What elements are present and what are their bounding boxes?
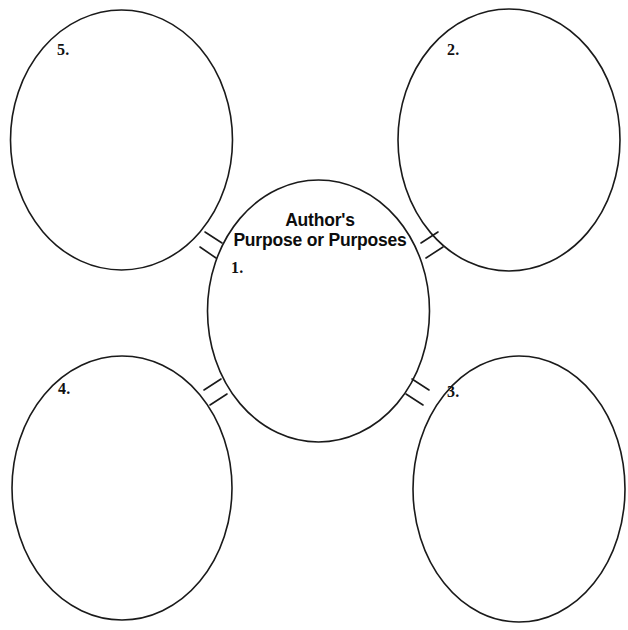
connector-top-left-upper — [205, 232, 222, 243]
connector-top-right-lower — [426, 247, 443, 258]
authors-purpose-graphic-organizer: Author's Purpose or Purposes 1. 5. 2. 3.… — [0, 0, 628, 630]
center-title-line-1: Author's — [230, 210, 410, 230]
connector-bottom-left-upper — [204, 379, 221, 390]
connector-top-left-lower — [200, 247, 216, 258]
connector-bottom-right-upper — [412, 379, 429, 390]
center-title-line-2: Purpose or Purposes — [230, 230, 410, 250]
oval-bottom-left-number-label: 4. — [58, 380, 70, 398]
connector-bottom-left-lower — [210, 394, 227, 405]
oval-bottom-left[interactable] — [12, 356, 232, 620]
oval-top-left[interactable] — [11, 10, 233, 270]
oval-top-left-number-label: 5. — [57, 41, 69, 59]
oval-top-right-number-label: 2. — [447, 41, 459, 59]
connector-bottom-right-lower — [406, 394, 423, 405]
oval-top-right[interactable] — [398, 9, 620, 271]
oval-center-number-label: 1. — [231, 259, 243, 277]
center-oval-title: Author's Purpose or Purposes — [230, 210, 410, 250]
oval-bottom-right-number-label: 3. — [447, 383, 459, 401]
oval-bottom-right[interactable] — [413, 356, 625, 622]
diagram-canvas — [0, 0, 628, 630]
